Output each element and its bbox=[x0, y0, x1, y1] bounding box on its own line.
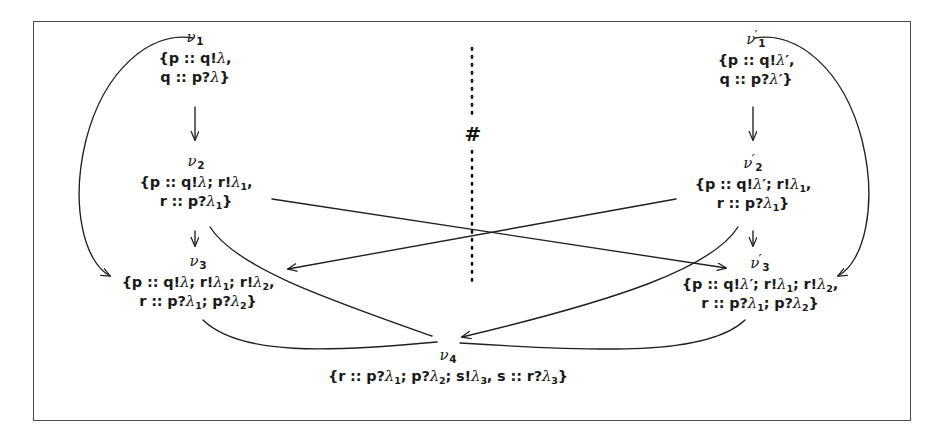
node-v2-prime-label: ν′2 bbox=[682, 152, 824, 174]
node-v4: ν4 {r :: p?λ1; p?λ2; s!λ3, s :: r?λ3} bbox=[312, 346, 584, 386]
node-v2-label: ν2 bbox=[128, 152, 264, 172]
figure-canvas: ν1 {p :: q!λ, q :: p?λ} ν2 {p :: q!λ; r!… bbox=[0, 0, 948, 444]
node-v1: ν1 {p :: q!λ, q :: p?λ} bbox=[130, 28, 260, 87]
hash-symbol: # bbox=[459, 122, 487, 146]
node-v2-body: {p :: q!λ; r!λ1, r :: p?λ1} bbox=[128, 173, 264, 212]
node-v1-prime: ν′1 {p :: q!λ′, q :: p?λ′} bbox=[688, 28, 824, 89]
node-v3: ν3 {p :: q!λ; r!λ1; r!λ2, r :: p?λ1; p?λ… bbox=[100, 252, 296, 312]
node-v2-prime: ν′2 {p :: q!λ′; r!λ1, r :: p?λ1} bbox=[682, 152, 824, 214]
node-v1-label: ν1 bbox=[130, 28, 260, 48]
node-v1-body: {p :: q!λ, q :: p?λ} bbox=[130, 49, 260, 87]
node-v3-body: {p :: q!λ; r!λ1; r!λ2, r :: p?λ1; p?λ2} bbox=[100, 273, 296, 312]
node-v2: ν2 {p :: q!λ; r!λ1, r :: p?λ1} bbox=[128, 152, 264, 212]
node-v3-prime-label: ν′3 bbox=[660, 252, 860, 274]
node-v3-label: ν3 bbox=[100, 252, 296, 272]
node-v4-body: {r :: p?λ1; p?λ2; s!λ3, s :: r?λ3} bbox=[312, 367, 584, 386]
node-v1-prime-body: {p :: q!λ′, q :: p?λ′} bbox=[688, 51, 824, 89]
node-v4-label: ν4 bbox=[312, 346, 584, 366]
node-v3-prime-body: {p :: q!λ′; r!λ1; r!λ2, r :: p?λ1; p?λ2} bbox=[660, 275, 860, 314]
node-v2-prime-body: {p :: q!λ′; r!λ1, r :: p?λ1} bbox=[682, 175, 824, 214]
node-v3-prime: ν′3 {p :: q!λ′; r!λ1; r!λ2, r :: p?λ1; p… bbox=[660, 252, 860, 314]
node-v1-prime-label: ν′1 bbox=[688, 28, 824, 50]
